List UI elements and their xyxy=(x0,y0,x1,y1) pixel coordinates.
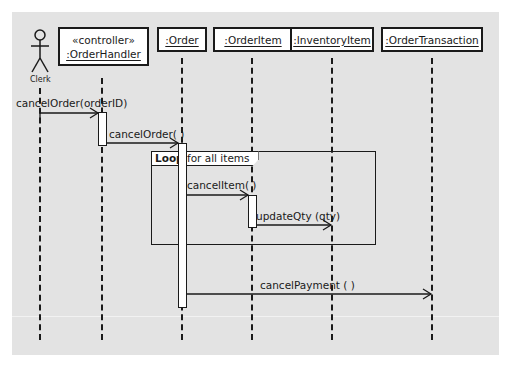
message-arrows xyxy=(0,0,513,366)
message-updateqty: updateQty (qty) xyxy=(256,210,340,222)
message-cancelitem: cancelItem( ) xyxy=(187,179,256,191)
message-cancelpayment: cancelPayment ( ) xyxy=(260,279,355,291)
message-cancelorder: cancelOrder( ) xyxy=(109,128,184,140)
message-cancelorder-orderid: cancelOrder(orderID) xyxy=(16,97,127,109)
